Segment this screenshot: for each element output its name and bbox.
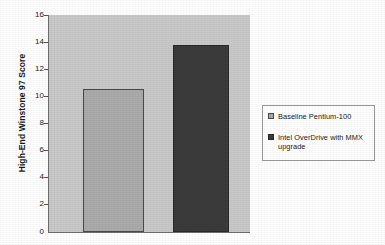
y-tick-label-0: 0: [20, 228, 44, 236]
bar-baseline-pentium-100: [83, 89, 144, 232]
legend-swatch-icon-overdrive: [268, 134, 274, 140]
y-tick-label-8: 8: [20, 119, 44, 127]
legend-item-baseline: Baseline Pentium-100: [268, 112, 369, 122]
legend-item-overdrive: Intel OverDrive with MMX upgrade: [268, 133, 369, 152]
chart-legend: Baseline Pentium-100 Intel OverDrive wit…: [262, 105, 375, 161]
y-tick-label-14: 14: [20, 38, 44, 46]
y-tick-label-2: 2: [20, 200, 44, 208]
bar-intel-overdrive-mmx: [173, 45, 229, 232]
y-tick-label-12: 12: [20, 65, 44, 73]
bar-chart-figure: High-End Winstone 97 Score 16 14 12 10 8…: [0, 0, 385, 245]
legend-label-overdrive: Intel OverDrive with MMX upgrade: [278, 133, 369, 152]
legend-label-baseline: Baseline Pentium-100: [278, 112, 351, 122]
y-tick-label-6: 6: [20, 146, 44, 154]
legend-swatch-icon-baseline: [268, 113, 274, 119]
plot-inner: [49, 15, 250, 232]
y-tick-label-4: 4: [20, 173, 44, 181]
y-tick-label-10: 10: [20, 92, 44, 100]
plot-area: [48, 15, 250, 233]
y-tick-label-16: 16: [20, 11, 44, 19]
